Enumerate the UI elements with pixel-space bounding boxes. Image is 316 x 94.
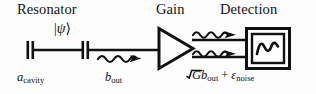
detector-box-icon (247, 29, 290, 69)
label-amplified-output: Gbout+εnoise (186, 68, 254, 82)
sqrt-radicand: G (192, 68, 201, 82)
label-output-mode: bout (105, 70, 122, 84)
amplified-term2-subscript: noise (236, 73, 254, 83)
sine-wave-icon (257, 43, 278, 54)
figure-canvas: Resonator Gain Detection |ψ⟩ (0, 0, 316, 94)
amplified-operator: + (218, 68, 231, 82)
capacitor-output-icon (82, 41, 90, 59)
schematic-drawing (0, 0, 316, 94)
amplified-term1-subscript: out (207, 73, 218, 83)
photon-arrow-amp-top-icon (193, 31, 236, 38)
output-mode-subscript: out (111, 75, 122, 85)
label-cavity-mode: acavity (17, 70, 44, 84)
capacitor-input-icon (27, 41, 35, 59)
amplifier-triangle-icon (159, 29, 193, 69)
cavity-mode-subscript: cavity (23, 75, 44, 85)
photon-arrow-out-icon (98, 55, 142, 62)
